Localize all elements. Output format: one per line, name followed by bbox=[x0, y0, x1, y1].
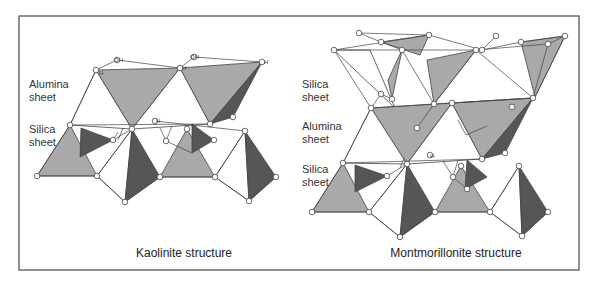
oxygen-atom bbox=[207, 121, 213, 127]
label-alumina: Alumina bbox=[29, 78, 70, 90]
bond-line bbox=[476, 50, 533, 98]
oxygen-atom bbox=[493, 33, 499, 39]
hydroxyl-label: H bbox=[99, 70, 103, 76]
bond-line bbox=[359, 33, 429, 35]
light-face bbox=[388, 50, 402, 99]
light-face bbox=[521, 36, 565, 97]
oxygen-atom bbox=[414, 125, 420, 131]
oxygen-atom bbox=[331, 47, 337, 53]
label-sheet: sheet bbox=[302, 133, 329, 145]
oxygen-atom bbox=[378, 39, 384, 45]
oxygen-atom bbox=[122, 199, 128, 205]
dark-face bbox=[465, 160, 487, 189]
oxygen-atom bbox=[273, 174, 279, 180]
oxygen-atom bbox=[432, 209, 438, 215]
hydroxyl-label: H bbox=[156, 118, 160, 124]
oxygen-atom bbox=[473, 47, 479, 53]
oxygen-atom bbox=[530, 95, 536, 101]
label-alumina: Alumina bbox=[302, 120, 343, 132]
oxygen-atom bbox=[479, 156, 485, 162]
oxygen-atom bbox=[464, 186, 470, 192]
oxygen-atom bbox=[518, 39, 524, 45]
dark-face bbox=[192, 124, 214, 153]
oxygen-atom bbox=[397, 234, 403, 240]
oxygen-atom bbox=[399, 47, 405, 53]
bond-line bbox=[117, 60, 180, 68]
bond-line bbox=[118, 128, 123, 140]
oxygen-atom bbox=[184, 126, 190, 132]
oxygen-atom bbox=[340, 160, 346, 166]
bond-line bbox=[402, 50, 434, 104]
clay-structure-figure: OHHOHHHHH Alumina sheet Silica sheet Kao… bbox=[0, 0, 599, 283]
label-silica: Silica bbox=[302, 163, 329, 175]
hydroxyl-label: OH bbox=[114, 57, 123, 63]
oxygen-atom bbox=[479, 47, 485, 53]
hydroxyl-label: H bbox=[182, 65, 186, 71]
dark-face bbox=[355, 165, 387, 192]
dark-face bbox=[80, 128, 113, 157]
label-sheet: sheet bbox=[29, 91, 56, 103]
oxygen-atom bbox=[449, 100, 455, 106]
oxygen-atom bbox=[516, 163, 522, 169]
caption-kaolinite: Kaolinite structure bbox=[136, 246, 232, 260]
hydroxyl-label: H bbox=[430, 153, 434, 159]
label-silica: Silica bbox=[302, 78, 329, 90]
oxygen-atom bbox=[157, 174, 163, 180]
hydroxyl-label: OH bbox=[190, 54, 199, 60]
oxygen-atom bbox=[211, 137, 217, 143]
oxygen-atom bbox=[389, 96, 395, 102]
oxygen-atom bbox=[366, 209, 372, 215]
white-face bbox=[490, 166, 522, 236]
label-sheet: sheet bbox=[29, 136, 56, 148]
oxygen-atom bbox=[368, 105, 374, 111]
oxygen-atom bbox=[519, 233, 525, 239]
oxygen-atom bbox=[562, 33, 568, 39]
white-face bbox=[334, 50, 395, 108]
oxygen-atom bbox=[545, 41, 551, 47]
hydroxyl-label: H bbox=[264, 59, 268, 65]
oxygen-atom bbox=[110, 137, 116, 143]
label-silica: Silica bbox=[29, 123, 56, 135]
oxygen-atom bbox=[34, 173, 40, 179]
oxygen-atom bbox=[545, 209, 551, 215]
oxygen-atom bbox=[242, 128, 248, 134]
oxygen-atom bbox=[450, 174, 456, 180]
bond-line bbox=[359, 33, 381, 42]
caption-montmorillonite: Montmorillonite structure bbox=[390, 246, 522, 260]
oxygen-atom bbox=[384, 173, 390, 179]
oxygen-atom bbox=[93, 67, 99, 73]
oxygen-atom bbox=[487, 209, 493, 215]
bond-line bbox=[482, 42, 521, 50]
oxygen-atom bbox=[67, 122, 73, 128]
oxygen-atom bbox=[129, 126, 135, 132]
oxygen-atom bbox=[431, 101, 437, 107]
bond-line bbox=[194, 57, 262, 62]
oxygen-atom bbox=[502, 150, 508, 156]
oxygen-atom bbox=[246, 198, 252, 204]
light-face bbox=[427, 50, 476, 104]
oxygen-atom bbox=[212, 174, 218, 180]
oxygen-atom bbox=[458, 163, 464, 169]
oxygen-atom bbox=[230, 114, 236, 120]
oxygen-atom bbox=[378, 91, 384, 97]
label-sheet: sheet bbox=[302, 176, 329, 188]
oxygen-atom bbox=[404, 161, 410, 167]
white-face bbox=[215, 131, 249, 201]
oxygen-atom bbox=[426, 32, 432, 38]
tetrahedra-octahedra-faces bbox=[37, 35, 565, 237]
oxygen-atom bbox=[94, 173, 100, 179]
oxygen-atom bbox=[163, 138, 169, 144]
label-sheet: sheet bbox=[302, 91, 329, 103]
oxygen-atom bbox=[356, 30, 362, 36]
oxygen-atom bbox=[309, 209, 315, 215]
oxygen-atom bbox=[509, 104, 515, 110]
